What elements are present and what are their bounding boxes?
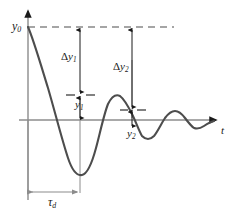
decay-curve-svg <box>0 0 243 219</box>
label-delta-y1: Δy1 <box>61 51 77 64</box>
label-t-axis: t <box>221 125 224 136</box>
label-y2: y2 <box>127 128 136 141</box>
damped-oscillation-curve <box>28 27 214 175</box>
label-delta-y2: Δy2 <box>113 61 129 74</box>
damped-oscillation-figure: y0 Δy1 Δy2 y1 y2 τd t <box>0 0 243 219</box>
label-tau-d: τd <box>48 196 56 210</box>
label-y1: y1 <box>75 99 84 112</box>
label-y0: y0 <box>12 20 21 34</box>
